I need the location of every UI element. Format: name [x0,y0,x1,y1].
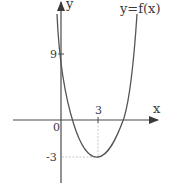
function-curve [57,14,137,157]
y-axis-label: y [65,0,74,11]
origin-label: 0 [53,121,60,134]
x-axis-label: x [153,101,161,116]
tick-label-y-9: 9 [50,48,57,61]
function-graph: y y=f(x) 9 x 3 0 -3 [0,0,170,186]
tick-label-y-neg3: -3 [46,151,57,164]
function-label: y=f(x) [119,1,161,16]
tick-label-x-3: 3 [95,104,102,117]
